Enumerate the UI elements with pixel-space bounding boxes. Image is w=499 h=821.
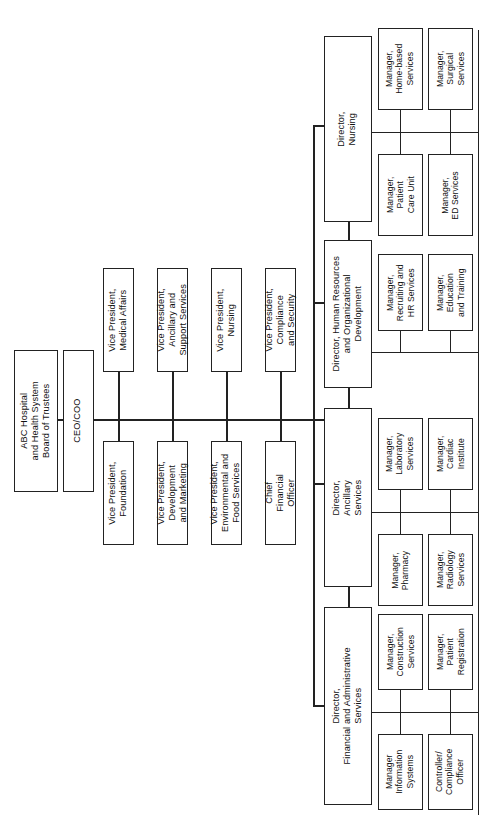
- vp-medical-affairs-label: Vice President,Medical Affairs: [107, 288, 129, 351]
- connector-trunk-to-vp-nursing: [226, 372, 228, 420]
- connector-hr-mgr-education: [450, 330, 451, 353]
- manager-laboratory-label: Manager,LaboratoryServices: [385, 433, 416, 475]
- director-spine: [313, 125, 315, 705]
- connector-director-hr-to-ancillary: [348, 388, 350, 408]
- manager-education-label: Manager,Educationand Training: [435, 268, 466, 317]
- box-vp-medical-affairs[interactable]: Vice President,Medical Affairs: [103, 268, 134, 372]
- connector-trunk-to-vp-medical-affairs: [118, 372, 120, 420]
- box-manager-ed-services[interactable]: Manager,ED Services: [428, 154, 473, 236]
- connector-ancillary-mgr-radiology: [450, 512, 451, 534]
- box-chief-financial-officer[interactable]: ChiefFinancialOfficer: [265, 441, 296, 545]
- manager-cardiac-label: Manager,CardiacInstitute: [435, 436, 466, 473]
- vp-compliance-security-label: Vice President,Complianceand Security: [264, 288, 298, 351]
- connector-director-ancillary-to-financial: [348, 587, 350, 607]
- connector-fin-mgr-controller: [450, 712, 451, 734]
- connector-nursing-mgr-ed-services: [450, 132, 451, 154]
- connector-director-nursing-to-hr: [348, 222, 350, 240]
- box-director-ancillary-services[interactable]: Director,AncillaryServices: [324, 408, 372, 587]
- connector-director-hr-to-managers: [372, 352, 478, 353]
- box-manager-patient-registration[interactable]: Manager,PatientRegistration: [428, 614, 473, 690]
- connector-trunk-to-cfo: [280, 419, 282, 441]
- controller-compliance-label: Controller/ComplianceOfficer: [435, 749, 466, 795]
- director-ancillary-label: Director,AncillaryServices: [331, 479, 365, 515]
- director-financial-label: Director,Financial and AdministrativeSer…: [331, 647, 365, 764]
- box-vp-nursing[interactable]: Vice President,Nursing: [211, 268, 242, 372]
- manager-construction-label: Manager,ConstructionServices: [385, 627, 416, 676]
- box-vp-ancillary-support-services[interactable]: Vice President,Ancillary andSupport Serv…: [157, 268, 188, 372]
- connector-nursing-mgr-surgical: [450, 110, 451, 133]
- vp-development-marketing-label: Vice President,Developmentand Marketing: [156, 461, 190, 524]
- box-vp-foundation[interactable]: Vice President,Foundation: [103, 441, 134, 545]
- box-vp-compliance-security[interactable]: Vice President,Complianceand Security: [265, 268, 296, 372]
- vp-nursing-label: Vice President,Nursing: [215, 288, 237, 351]
- connector-hr-mgr-recruiting: [400, 330, 401, 353]
- box-director-human-resources[interactable]: Director, Human Resourcesand Organizatio…: [324, 240, 372, 388]
- connector-ancillary-mgr-laboratory: [400, 490, 401, 513]
- box-manager-pharmacy[interactable]: Manager,Pharmacy: [378, 534, 423, 606]
- box-manager-cardiac-institute[interactable]: Manager,CardiacInstitute: [428, 418, 473, 490]
- ceo-label: CEO/COO: [73, 399, 84, 443]
- box-vp-environmental-food-services[interactable]: Vice President,Environmental andFood Ser…: [211, 441, 242, 545]
- org-chart-canvas: ABC Hospitaland Health SystemBoard of Tr…: [0, 0, 499, 821]
- vp-ancillary-support-label: Vice President,Ancillary andSupport Serv…: [156, 284, 190, 356]
- connector-ceo-trunk: [93, 419, 320, 421]
- cfo-label: ChiefFinancialOfficer: [264, 474, 298, 512]
- manager-information-systems-label: ManagerInformationSystems: [385, 750, 416, 794]
- connector-trunk-to-vp-foundation: [118, 419, 120, 441]
- manager-patient-care-label: Manager,PatientCare Unit: [385, 176, 416, 213]
- connector-fin-mgr-construction: [400, 690, 401, 713]
- connector-director-financial-to-managers: [372, 712, 478, 713]
- box-manager-patient-care-unit[interactable]: Manager,PatientCare Unit: [378, 154, 423, 236]
- vp-foundation-label: Vice President,Foundation: [107, 461, 129, 524]
- connector-fin-mgr-information-systems: [400, 712, 401, 734]
- manager-pharmacy-label: Manager,Pharmacy: [390, 550, 411, 590]
- director-hr-label: Director, Human Resourcesand Organizatio…: [331, 256, 365, 371]
- vp-environmental-food-label: Vice President,Environmental andFood Ser…: [210, 454, 244, 532]
- box-vp-development-marketing[interactable]: Vice President,Developmentand Marketing: [157, 441, 188, 545]
- box-manager-recruiting-hr-services[interactable]: Manager,Recruiting andHR Services: [378, 254, 423, 331]
- box-manager-home-based-services[interactable]: Manager,Home-basedServices: [378, 28, 423, 110]
- connector-trunk-to-vp-ancillary-support: [172, 372, 174, 420]
- connector-trunk-to-vp-compliance-security: [280, 372, 282, 420]
- box-manager-radiology-services[interactable]: Manager,RadiologyServices: [428, 534, 473, 606]
- box-director-nursing[interactable]: Director,Nursing: [324, 36, 372, 222]
- connector-director-ancillary-to-managers: [372, 512, 478, 513]
- box-manager-construction-services[interactable]: Manager,ConstructionServices: [378, 614, 423, 690]
- connector-trunk-to-vp-environmental-food: [226, 419, 228, 441]
- connector-nursing-mgr-home-based: [400, 110, 401, 133]
- connector-ancillary-mgr-pharmacy: [400, 512, 401, 534]
- connector-fin-mgr-patient-registration: [450, 690, 451, 713]
- box-ceo-coo[interactable]: CEO/COO: [63, 350, 94, 492]
- manager-home-based-label: Manager,Home-basedServices: [385, 44, 416, 94]
- board-label: ABC Hospitaland Health SystemBoard of Tr…: [19, 381, 53, 460]
- box-manager-laboratory-services[interactable]: Manager,LaboratoryServices: [378, 418, 423, 490]
- manager-recruiting-label: Manager,Recruiting andHR Services: [385, 264, 416, 321]
- manager-outer-rail: [478, 30, 479, 815]
- box-board-of-trustees[interactable]: ABC Hospitaland Health SystemBoard of Tr…: [14, 350, 58, 492]
- connector-ancillary-mgr-cardiac: [450, 490, 451, 513]
- manager-ed-services-label: Manager,ED Services: [440, 171, 461, 219]
- connector-director-nursing-to-managers: [372, 132, 478, 133]
- box-manager-education-training[interactable]: Manager,Educationand Training: [428, 254, 473, 331]
- director-nursing-label: Director,Nursing: [337, 111, 359, 146]
- connector-trunk-to-vp-development-marketing: [172, 419, 174, 441]
- box-director-financial-administrative[interactable]: Director,Financial and AdministrativeSer…: [324, 607, 372, 805]
- manager-patient-registration-label: Manager,PatientRegistration: [435, 628, 466, 675]
- manager-surgical-label: Manager,SurgicalServices: [435, 51, 466, 88]
- box-controller-compliance-officer[interactable]: Controller/ComplianceOfficer: [428, 734, 473, 810]
- manager-radiology-label: Manager,RadiologyServices: [435, 550, 466, 589]
- connector-nursing-mgr-patient-care: [400, 132, 401, 154]
- box-manager-information-systems[interactable]: ManagerInformationSystems: [378, 734, 423, 810]
- box-manager-surgical-services[interactable]: Manager,SurgicalServices: [428, 28, 473, 110]
